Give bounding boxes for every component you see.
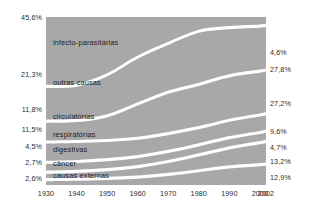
- band-label-outras-causas: outras causas: [53, 79, 101, 87]
- band-label-digestivas: digestivas: [53, 146, 87, 154]
- x-tick-1930: 1930: [33, 190, 59, 198]
- band-label-cancer: câncer: [53, 160, 76, 168]
- left-value-outras-causas: 21,3%: [2, 71, 42, 79]
- left-value-causas-externas: 2,6%: [2, 175, 42, 183]
- x-tick-1980: 1980: [186, 190, 212, 198]
- band-label-respiratorias: respiratórias: [53, 131, 96, 139]
- right-value-infecto-parasitarias: 4,6%: [270, 49, 287, 57]
- right-value-causas-externas: 12,9%: [270, 174, 291, 182]
- right-value-cancer: 13,2%: [270, 158, 291, 166]
- x-tick-1970: 1970: [155, 190, 181, 198]
- left-value-cancer: 2,7%: [2, 159, 42, 167]
- band-label-causas-externas: causas externas: [53, 172, 109, 180]
- stacked-area-chart: 45,6% 21,3% 11,8% 11,5% 4,5% 2,7% 2,6% 4…: [0, 0, 323, 207]
- left-value-infecto-parasitarias: 45,6%: [2, 14, 42, 22]
- right-value-outras-causas: 27,8%: [270, 66, 291, 74]
- band-label-infecto-parasitarias: infecto-parasitárias: [53, 39, 118, 47]
- right-value-digestivas: 4,7%: [270, 144, 287, 152]
- left-value-respiratorias: 11,5%: [2, 126, 42, 134]
- right-value-respiratorias: 9,6%: [270, 128, 287, 136]
- x-tick-1990: 1990: [216, 190, 242, 198]
- left-value-digestivas: 4,5%: [2, 143, 42, 151]
- x-tick-1960: 1960: [125, 190, 151, 198]
- x-tick-2002: 2002: [253, 190, 279, 198]
- right-value-circulatorias: 27,2%: [270, 100, 291, 108]
- x-tick-1950: 1950: [94, 190, 120, 198]
- x-tick-1940: 1940: [64, 190, 90, 198]
- left-value-circulatorias: 11,8%: [2, 106, 42, 114]
- band-label-circulatorias: circulatórias: [53, 113, 94, 121]
- x-axis-ticks: 193019401950196019701980199020002002: [0, 190, 323, 200]
